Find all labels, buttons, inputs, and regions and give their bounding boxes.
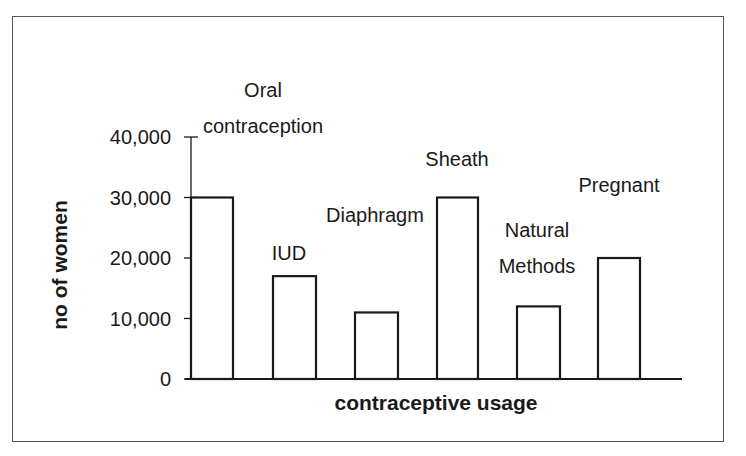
category-label: Methods [499, 255, 576, 277]
category-label: Oral [244, 79, 282, 101]
y-axis-title: no of women [48, 200, 71, 330]
bar-sheath [437, 198, 478, 380]
category-label: Sheath [425, 148, 488, 170]
y-tick-label: 30,000 [110, 187, 171, 209]
bar-chart: 010,00020,00030,00040,000Oralcontracepti… [0, 0, 746, 456]
category-label: Pregnant [578, 174, 660, 196]
category-label: Diaphragm [326, 204, 424, 226]
category-label: IUD [272, 242, 306, 264]
y-tick-label: 10,000 [110, 308, 171, 330]
bar-pregnant [598, 258, 640, 379]
y-tick-label: 0 [160, 368, 171, 390]
category-label: Natural [505, 219, 569, 241]
y-tick-label: 20,000 [110, 247, 171, 269]
bar-oral-contraception [191, 198, 233, 380]
category-label: contraception [203, 115, 323, 137]
bar-iud [273, 276, 316, 379]
y-tick-label: 40,000 [110, 126, 171, 148]
x-axis-title: contraceptive usage [334, 391, 537, 414]
bar-diaphragm [355, 312, 398, 379]
bar-natural-methods [517, 306, 560, 379]
